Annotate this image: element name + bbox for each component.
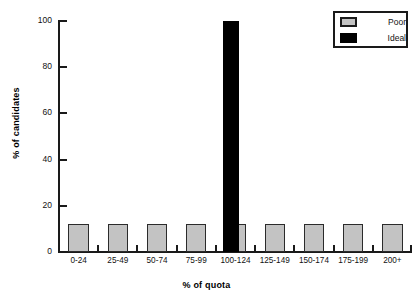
x-tick-label: 25-49 bbox=[98, 256, 137, 265]
gray-swatch-icon bbox=[340, 17, 357, 27]
x-tick-mark bbox=[97, 245, 99, 253]
bar-poor-25-49 bbox=[108, 224, 128, 252]
x-tick-label: 0-24 bbox=[59, 256, 98, 265]
y-tick-mark bbox=[60, 159, 67, 161]
bar-poor-0-24 bbox=[68, 224, 88, 252]
x-tick-mark bbox=[254, 245, 256, 253]
bar-poor-75-99 bbox=[186, 224, 206, 252]
y-tick-label: 0 bbox=[26, 247, 52, 256]
x-axis-title: % of quota bbox=[0, 280, 413, 290]
x-tick-label: 175-199 bbox=[334, 256, 373, 265]
legend-item-poor: Poor bbox=[340, 16, 406, 29]
y-tick-label: 80 bbox=[26, 62, 52, 71]
y-tick-mark bbox=[60, 251, 67, 253]
black-swatch-icon bbox=[340, 33, 357, 43]
x-tick-mark bbox=[410, 245, 412, 253]
x-tick-label: 75-99 bbox=[177, 256, 216, 265]
x-tick-label: 200+ bbox=[373, 256, 412, 265]
bar-poor-50-74 bbox=[147, 224, 167, 252]
bar-ideal-100-124 bbox=[223, 21, 239, 252]
y-tick-label: 100 bbox=[26, 16, 52, 25]
x-tick-mark bbox=[293, 245, 295, 253]
x-tick-mark bbox=[136, 245, 138, 253]
x-tick-label: 125-149 bbox=[255, 256, 294, 265]
y-axis-title: % of candidates bbox=[11, 63, 21, 183]
y-tick-label: 20 bbox=[26, 201, 52, 210]
y-tick-label: 40 bbox=[26, 155, 52, 164]
x-tick-label: 50-74 bbox=[137, 256, 176, 265]
y-tick-mark bbox=[60, 205, 67, 207]
x-tick-label: 150-174 bbox=[294, 256, 333, 265]
x-tick-mark bbox=[176, 245, 178, 253]
x-tick-label: 100-124 bbox=[216, 256, 255, 265]
y-tick-label: 60 bbox=[26, 108, 52, 117]
legend-label-poor: Poor bbox=[388, 17, 406, 27]
x-tick-mark bbox=[333, 245, 335, 253]
x-tick-mark bbox=[215, 245, 217, 253]
y-axis-line bbox=[58, 20, 60, 253]
bar-poor-125-149 bbox=[265, 224, 285, 252]
bar-chart: 020406080100 0-2425-4950-7475-99100-1241… bbox=[0, 0, 413, 303]
y-tick-mark bbox=[60, 66, 67, 68]
legend: Poor Ideal bbox=[333, 11, 408, 48]
x-tick-mark bbox=[372, 245, 374, 253]
y-tick-mark bbox=[60, 112, 67, 114]
legend-item-ideal: Ideal bbox=[340, 32, 406, 45]
y-tick-mark bbox=[60, 20, 67, 22]
legend-label-ideal: Ideal bbox=[388, 33, 406, 43]
bar-poor-150-174 bbox=[304, 224, 324, 252]
bar-poor-200+ bbox=[382, 224, 402, 252]
bar-poor-175-199 bbox=[343, 224, 363, 252]
